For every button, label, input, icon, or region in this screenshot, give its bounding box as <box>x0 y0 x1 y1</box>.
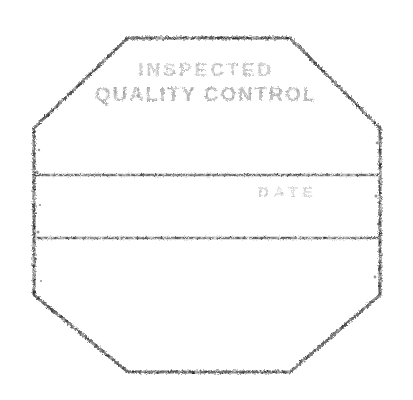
stamp-text-line-1: INSPECTED <box>138 59 274 80</box>
stamp-canvas: INSPECTED QUALITY CONTROL DATE <box>0 0 413 400</box>
stamp-text-line-3: DATE <box>258 183 318 200</box>
stamp-text-line-2: QUALITY CONTROL <box>95 83 317 105</box>
octagon-border: INSPECTED QUALITY CONTROL DATE <box>0 0 413 400</box>
